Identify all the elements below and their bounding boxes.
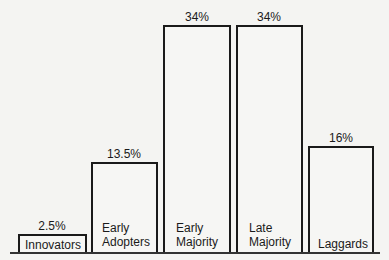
bar-early-majority: [163, 25, 231, 254]
x-axis-baseline: [10, 252, 380, 254]
category-label-late-majority: Late Majority: [249, 221, 291, 249]
value-label-laggards: 16%: [306, 131, 376, 145]
category-label-line1: Early: [176, 221, 218, 235]
category-label-early-adopters: Early Adopters: [102, 221, 150, 249]
value-label-innovators: 2.5%: [17, 219, 87, 233]
category-label-laggards: Laggards: [318, 237, 368, 251]
category-label-innovators: Innovators: [25, 238, 81, 252]
category-label-line1: Late: [249, 221, 291, 235]
value-label-early-majority: 34%: [162, 10, 232, 24]
value-label-late-majority: 34%: [234, 10, 304, 24]
category-label-line2: Majority: [176, 235, 218, 249]
category-label-line2: Majority: [249, 235, 291, 249]
category-label-early-majority: Early Majority: [176, 221, 218, 249]
category-label-line1: Early: [102, 221, 150, 235]
value-label-early-adopters: 13.5%: [89, 147, 159, 161]
bar-late-majority: [236, 25, 303, 254]
category-label-line2: Adopters: [102, 235, 150, 249]
